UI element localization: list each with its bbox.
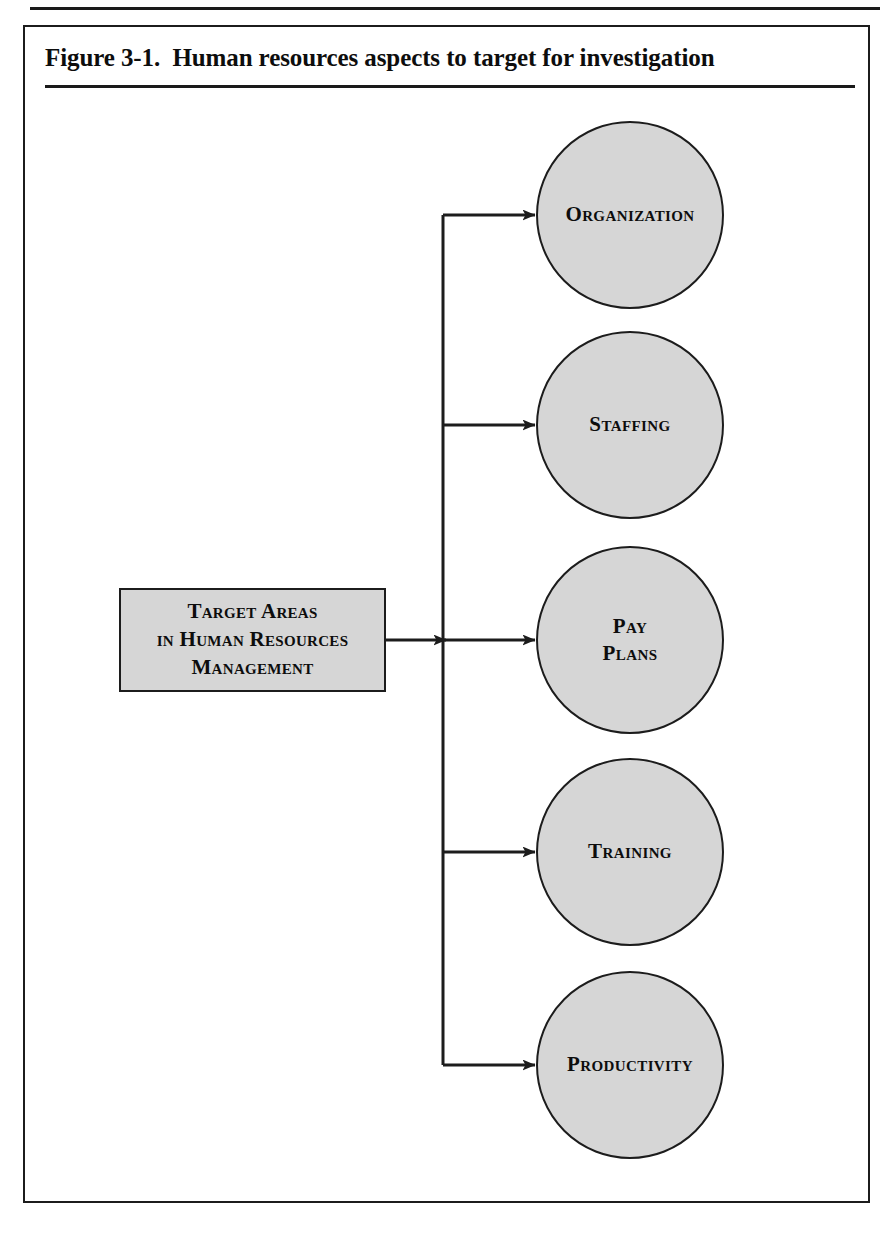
figure-page: Figure 3-1. Human resources aspects to t… <box>0 0 894 1235</box>
node-pay-plans-label-2: Plans <box>603 640 658 667</box>
node-organization-label: Organization <box>565 201 694 228</box>
node-productivity-label: Productivity <box>567 1051 693 1078</box>
source-box: Target Areas in Human Resources Manageme… <box>119 588 386 692</box>
node-training-label: Training <box>588 838 672 865</box>
node-training: Training <box>536 758 724 946</box>
node-staffing: Staffing <box>536 331 724 519</box>
node-pay-plans: Pay Plans <box>536 546 724 734</box>
source-box-line-2: in Human Resources <box>157 626 349 654</box>
source-box-line-3: Management <box>192 654 314 682</box>
source-box-line-1: Target Areas <box>187 598 317 626</box>
node-productivity: Productivity <box>536 971 724 1159</box>
node-organization: Organization <box>536 121 724 309</box>
node-pay-plans-label-1: Pay <box>613 613 647 640</box>
node-staffing-label: Staffing <box>589 411 670 438</box>
